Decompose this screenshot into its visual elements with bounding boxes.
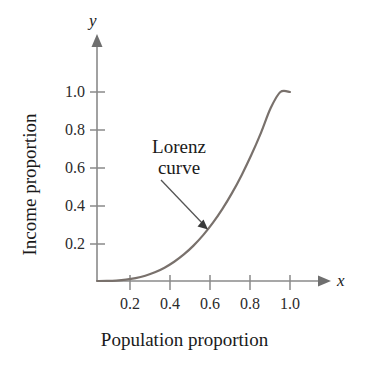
x-axis-title: Population proportion xyxy=(0,330,369,349)
x-tick-label-0.2: 0.2 xyxy=(120,296,140,312)
annotation-line-2: curve xyxy=(131,157,227,178)
lorenz-curve-path xyxy=(97,91,290,281)
x-axis-ticks xyxy=(130,275,290,290)
x-axis-symbol: x xyxy=(337,272,345,289)
annotation-arrowhead xyxy=(198,220,209,230)
annotation-line-1: Lorenz xyxy=(131,136,227,157)
y-tick-label-0.8: 0.8 xyxy=(65,122,85,138)
x-tick-label-1.0: 1.0 xyxy=(280,296,300,312)
y-tick-label-1.0: 1.0 xyxy=(65,84,85,100)
lorenz-curve-annotation: Lorenz curve xyxy=(131,136,227,179)
x-tick-label-0.6: 0.6 xyxy=(200,296,220,312)
y-tick-label-0.2: 0.2 xyxy=(65,236,85,252)
x-axis-arrowhead xyxy=(318,276,331,287)
chart-plot-area xyxy=(0,0,369,369)
lorenz-curve-figure: 1.0 0.8 0.6 0.4 0.2 0.2 0.4 0.6 0.8 1.0 … xyxy=(0,0,369,369)
y-tick-label-0.6: 0.6 xyxy=(65,160,85,176)
x-tick-label-0.4: 0.4 xyxy=(160,296,180,312)
y-tick-label-0.4: 0.4 xyxy=(65,198,85,214)
annotation-leader-line xyxy=(161,180,204,225)
y-axis-arrowhead xyxy=(92,34,103,47)
x-tick-label-0.8: 0.8 xyxy=(240,296,260,312)
y-axis-title: Income proportion xyxy=(20,85,39,285)
y-axis-symbol: y xyxy=(89,12,97,29)
